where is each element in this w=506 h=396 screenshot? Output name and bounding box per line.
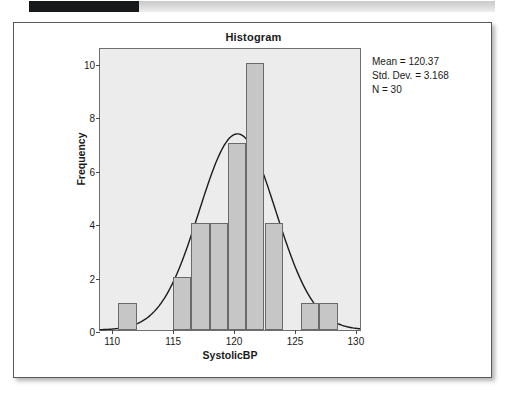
x-axis-tick-label: 120 (226, 336, 243, 347)
top-banner (0, 0, 506, 13)
y-axis-tick-label: 6 (89, 166, 95, 177)
chart-title: Histogram (14, 31, 493, 43)
x-axis-tick-label: 115 (165, 336, 181, 347)
statistics-annotation: Mean = 120.37 Std. Dev. = 3.168 N = 30 (372, 55, 490, 97)
plot-inner (100, 49, 360, 330)
y-axis-tick-label: 0 (89, 327, 95, 338)
x-axis-tick-mark (112, 330, 113, 334)
y-axis-tick-label: 10 (84, 60, 95, 71)
x-axis-tick-label: 130 (348, 336, 365, 347)
x-axis-tick-mark (234, 330, 235, 334)
y-axis-tick-label: 2 (89, 273, 95, 284)
histogram-bar (210, 223, 228, 330)
plot-area: Frequency 0246810110115120125130 (99, 48, 361, 331)
x-axis-tick-mark (356, 330, 357, 334)
histogram-bar (265, 223, 283, 330)
histogram-bar (246, 63, 264, 330)
y-axis-tick-mark (96, 65, 100, 66)
x-axis-tick-mark (295, 330, 296, 334)
y-axis-tick-mark (96, 225, 100, 226)
y-axis-tick-mark (96, 172, 100, 173)
histogram-bar (118, 303, 136, 330)
histogram-bar (319, 303, 337, 330)
y-axis-tick-label: 8 (89, 113, 95, 124)
stat-std-dev: Std. Dev. = 3.168 (372, 69, 490, 83)
y-axis-label: Frequency (75, 99, 87, 219)
y-axis-tick-label: 4 (89, 220, 95, 231)
stat-mean: Mean = 120.37 (372, 55, 490, 69)
top-banner-dark-block (29, 1, 139, 12)
y-axis-tick-mark (96, 118, 100, 119)
x-axis-tick-mark (173, 330, 174, 334)
histogram-bar (191, 223, 209, 330)
x-axis-label: SystolicBP (99, 349, 361, 361)
figure-card: Histogram Frequency 02468101101151201251… (13, 22, 492, 378)
stat-n: N = 30 (372, 83, 490, 97)
histogram-bar (173, 277, 191, 330)
y-axis-tick-mark (96, 332, 100, 333)
histogram-bar (301, 303, 319, 330)
y-axis-tick-mark (96, 279, 100, 280)
x-axis-tick-label: 110 (104, 336, 120, 347)
histogram-bar (228, 143, 246, 330)
top-banner-gray-bar (139, 1, 495, 12)
x-axis-tick-label: 125 (287, 336, 304, 347)
